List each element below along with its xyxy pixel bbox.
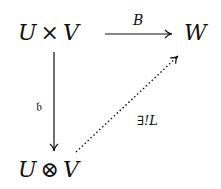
label-exists-unique-l: ∃!L	[137, 113, 158, 128]
u-symbol: U	[18, 157, 37, 182]
arrow-diagonal	[76, 56, 178, 152]
label-frak-b: 𝔟	[36, 99, 42, 115]
tensor-operator: ⊗	[41, 157, 59, 182]
v-symbol: V	[63, 157, 79, 182]
v-symbol: V	[63, 20, 79, 45]
times-operator: ×	[41, 20, 59, 45]
u-symbol: U	[18, 20, 37, 45]
label-b: B	[133, 12, 143, 28]
node-u-times-v: U×V	[18, 20, 79, 45]
node-w: W	[184, 20, 207, 45]
w-symbol: W	[184, 20, 207, 45]
node-u-tensor-v: U⊗V	[18, 157, 79, 182]
